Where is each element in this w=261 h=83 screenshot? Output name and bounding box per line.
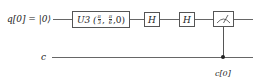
qubit-label-q0: q[0] = |0⟩ [7, 14, 51, 24]
u3-gate-prefix: U3 ( [77, 15, 97, 25]
measure-connector [223, 26, 224, 57]
hadamard-gate-2[interactable]: H [179, 12, 195, 27]
hadamard-gate-1[interactable]: H [144, 12, 160, 27]
u3-param-phi: π6 [109, 14, 112, 25]
classical-label-c: c [41, 52, 46, 62]
measure-gate[interactable] [213, 11, 234, 27]
u3-gate[interactable]: U3 ( π3 , π6 , 0 ) [72, 11, 130, 28]
hadamard-gate-1-label: H [148, 15, 156, 25]
u3-gate-suffix: ) [122, 15, 126, 25]
u3-param-theta: π3 [98, 14, 101, 25]
meter-icon [214, 12, 233, 26]
classical-bit-label: c[0] [215, 69, 231, 79]
hadamard-gate-2-label: H [183, 15, 191, 25]
measure-target-dot [221, 55, 225, 59]
param-separator: , [102, 15, 108, 25]
